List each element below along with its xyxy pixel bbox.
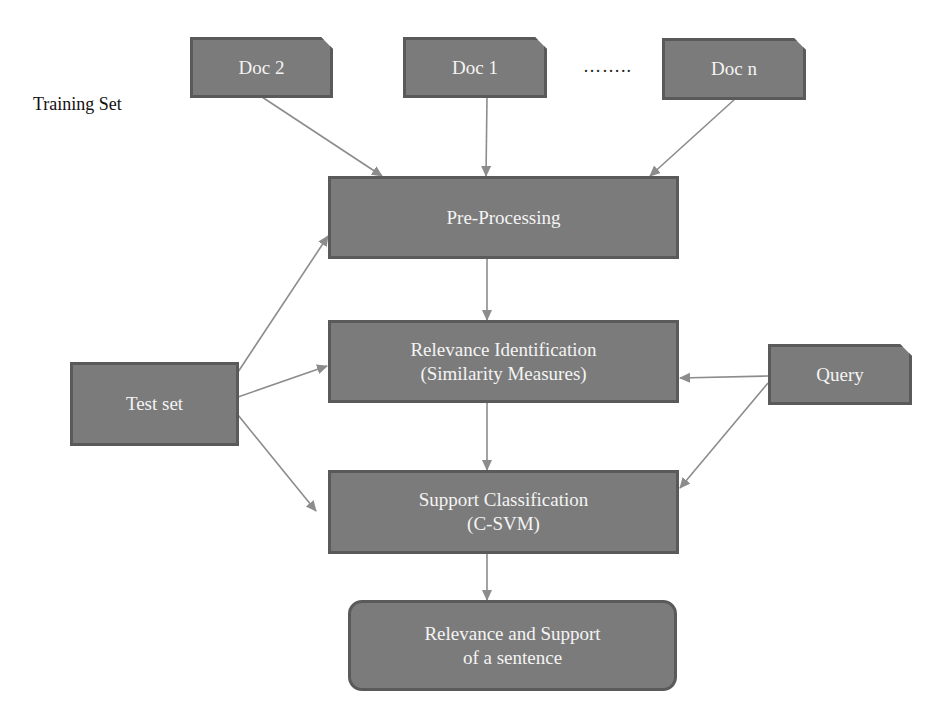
relevance-label-line1: Relevance Identification: [410, 338, 596, 362]
query-node: Query: [768, 344, 912, 405]
test-set-label: Test set: [126, 392, 183, 416]
output-node: Relevance and Support of a sentence: [348, 600, 677, 691]
support-label-line1: Support Classification: [419, 488, 588, 512]
edge-testset-preprocessing: [238, 236, 328, 372]
support-label-line2: (C-SVM): [467, 512, 540, 536]
ellipsis: ……..: [583, 56, 632, 77]
edge-doc2-preprocessing: [262, 97, 382, 176]
edge-doc1-preprocessing: [486, 97, 487, 176]
doc-2-label: Doc 2: [239, 56, 285, 80]
edge-query-support: [680, 383, 768, 488]
output-label-line1: Relevance and Support: [424, 622, 600, 646]
query-label: Query: [816, 363, 863, 387]
doc-1-node: Doc 1: [403, 37, 547, 98]
relevance-label-line2: (Similarity Measures): [420, 362, 586, 386]
output-label-line2: of a sentence: [463, 646, 562, 670]
relevance-identification-node: Relevance Identification (Similarity Mea…: [328, 320, 679, 403]
training-set-label: Training Set: [33, 94, 122, 115]
edge-docn-preprocessing: [650, 99, 735, 176]
edge-testset-relevance: [238, 366, 327, 397]
preprocessing-label: Pre-Processing: [447, 206, 561, 230]
doc-n-label: Doc n: [711, 57, 757, 81]
edge-testset-support: [238, 415, 316, 511]
edge-query-relevance: [680, 376, 768, 378]
doc-1-label: Doc 1: [452, 56, 498, 80]
support-classification-node: Support Classification (C-SVM): [328, 470, 679, 554]
preprocessing-node: Pre-Processing: [328, 176, 679, 259]
doc-n-node: Doc n: [662, 38, 806, 100]
doc-2-node: Doc 2: [190, 37, 333, 98]
test-set-node: Test set: [70, 362, 239, 446]
